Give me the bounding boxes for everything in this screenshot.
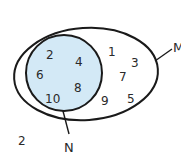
set-n-element: 10	[45, 92, 60, 106]
set-m-element: 1	[108, 45, 116, 59]
set-m-element: 9	[101, 94, 109, 108]
set-m-element: 3	[131, 56, 139, 70]
set-n-label: N	[64, 140, 74, 155]
set-m-element: 7	[119, 70, 127, 84]
set-m-label: M	[173, 40, 181, 55]
set-n-element: 6	[36, 68, 44, 82]
set-m-element: 5	[127, 92, 135, 106]
set-n-element: 8	[74, 81, 82, 95]
set-n-element: 4	[75, 55, 83, 69]
outside-element: 2	[18, 134, 26, 148]
venn-diagram: M N 2 4 6 8 10 1 3 7 9 5 2	[0, 0, 181, 167]
set-m-leader-line	[155, 49, 172, 61]
set-n-element: 2	[46, 48, 54, 62]
set-n-leader-line	[63, 111, 69, 134]
